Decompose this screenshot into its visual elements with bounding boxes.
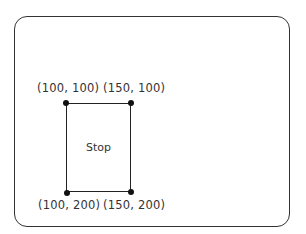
coord-label-bottom-left: (100, 200) — [38, 198, 100, 212]
corner-dot-top-left — [63, 100, 69, 106]
corner-dot-bottom-left — [64, 190, 70, 196]
corner-dot-bottom-right — [128, 189, 134, 195]
coord-label-top-right: (150, 100) — [103, 81, 165, 95]
coord-label-top-left: (100, 100) — [37, 81, 99, 95]
corner-dot-top-right — [128, 100, 134, 106]
stop-label: Stop — [66, 103, 131, 192]
window-frame — [14, 16, 290, 227]
coord-label-bottom-right: (150, 200) — [103, 198, 165, 212]
